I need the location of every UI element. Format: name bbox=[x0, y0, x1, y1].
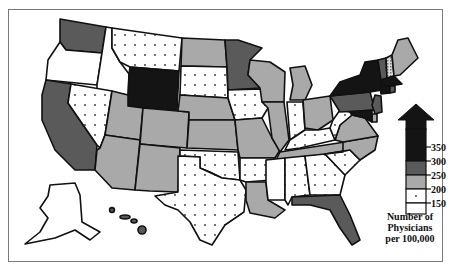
state-KS[interactable] bbox=[187, 120, 238, 150]
legend-tick-label: 250 bbox=[431, 170, 446, 181]
state-WA[interactable] bbox=[60, 19, 106, 53]
legend-tick-label: 350 bbox=[431, 142, 446, 153]
state-NY[interactable] bbox=[330, 60, 382, 96]
state-CT[interactable] bbox=[380, 86, 390, 94]
state-CO[interactable] bbox=[140, 108, 189, 148]
state-AZ[interactable] bbox=[95, 135, 140, 190]
state-ND[interactable] bbox=[181, 38, 227, 67]
state-AK[interactable] bbox=[25, 183, 100, 244]
legend-title-line-2: Physicians bbox=[370, 222, 450, 233]
legend-tick-label: 200 bbox=[431, 184, 446, 195]
state-HI[interactable] bbox=[110, 208, 146, 234]
legend-title-line-3: per 100,000 bbox=[370, 233, 450, 244]
state-SD[interactable] bbox=[180, 66, 228, 98]
legend-arrow bbox=[398, 104, 434, 130]
state-RI[interactable] bbox=[390, 86, 395, 93]
state-FL[interactable] bbox=[292, 195, 360, 245]
legend-title: Number of Physicians per 100,000 bbox=[370, 211, 450, 244]
state-WY[interactable] bbox=[128, 67, 179, 110]
legend-swatch-250-300 bbox=[406, 161, 426, 175]
legend-title-line-1: Number of bbox=[370, 211, 450, 222]
state-OH[interactable] bbox=[303, 96, 333, 130]
legend-tick-label: 300 bbox=[431, 156, 446, 167]
state-MI[interactable] bbox=[290, 66, 312, 100]
state-NJ[interactable] bbox=[372, 95, 382, 114]
legend-tick-label: 150 bbox=[431, 198, 446, 209]
legend-swatch-over300 bbox=[406, 129, 426, 161]
state-ME[interactable] bbox=[392, 38, 418, 76]
state-MS[interactable] bbox=[266, 158, 285, 200]
state-NM[interactable] bbox=[135, 144, 180, 192]
legend-swatch-200-250 bbox=[406, 175, 426, 189]
legend-scale: 350300250200150 bbox=[398, 104, 446, 214]
